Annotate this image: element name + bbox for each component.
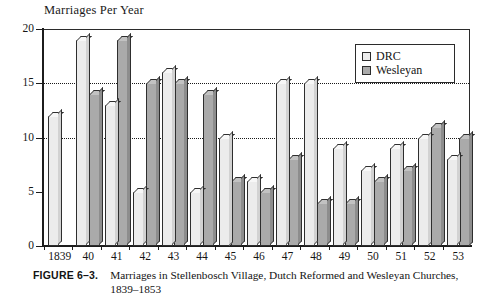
y-tick-label-20: 20 <box>8 23 34 34</box>
bar-group-43 <box>159 29 187 246</box>
bar-wesleyan-43 <box>174 83 185 246</box>
bar-wesleyan-44 <box>203 94 214 246</box>
bar-side-face <box>200 185 204 245</box>
bar-wesleyan-42 <box>146 83 157 246</box>
bar-side-face <box>143 185 147 245</box>
bar-wesleyan-52 <box>431 127 442 246</box>
bar-drc-1839 <box>48 116 59 246</box>
bar-side-face <box>213 87 217 245</box>
x-tick-mark-53 <box>443 246 444 250</box>
bar-side-face <box>184 76 188 245</box>
bar-drc-47 <box>276 83 287 246</box>
legend-swatch-drc-icon <box>362 52 371 61</box>
bar-drc-43 <box>162 72 173 246</box>
x-tick-mark-41 <box>101 246 102 250</box>
bar-drc-48 <box>304 83 315 246</box>
x-tick-mark-51 <box>386 246 387 250</box>
caption-text: Marriages in Stellenbosch Village, Dutch… <box>110 269 478 296</box>
x-tick-mark-50 <box>357 246 358 250</box>
bar-side-face <box>314 76 318 245</box>
bar-group-41 <box>102 29 130 246</box>
x-tick-mark-40 <box>72 246 73 250</box>
legend-swatch-wesleyan-icon <box>362 66 371 75</box>
y-tick-mark-20 <box>36 29 43 30</box>
bar-wesleyan-50 <box>374 181 385 246</box>
bar-group-46 <box>244 29 272 246</box>
bar-drc-40 <box>76 40 87 246</box>
bar-side-face <box>58 109 62 245</box>
bar-side-face <box>327 196 331 245</box>
bar-side-face <box>156 76 160 245</box>
bar-side-face <box>127 33 131 245</box>
bar-drc-45 <box>219 138 230 247</box>
bar-group-40 <box>73 29 101 246</box>
bar-group-44 <box>187 29 215 246</box>
y-tick-label-15: 15 <box>8 77 34 88</box>
bar-drc-41 <box>105 105 116 246</box>
bar-side-face <box>355 196 359 245</box>
legend-item-wesleyan: Wesleyan <box>362 63 448 77</box>
bar-wesleyan-40 <box>89 94 100 246</box>
y-tick-label-5: 5 <box>8 186 34 197</box>
x-tick-mark-49 <box>329 246 330 250</box>
legend-label-drc: DRC <box>376 49 401 63</box>
bar-wesleyan-46 <box>260 192 271 246</box>
bar-group-49 <box>330 29 358 246</box>
chart-axis-title: Marriages Per Year <box>44 3 144 18</box>
figure-caption: FIGURE 6–3.Marriages in Stellenbosch Vil… <box>33 269 483 296</box>
bar-drc-42 <box>133 192 144 246</box>
figure-root: Marriages Per Year 05101520 183940414243… <box>0 0 495 307</box>
bar-side-face <box>298 152 302 245</box>
bar-side-face <box>99 87 103 245</box>
bar-group-47 <box>273 29 301 246</box>
bar-drc-44 <box>190 192 201 246</box>
bar-side-face <box>115 98 119 245</box>
legend-item-drc: DRC <box>362 49 448 63</box>
bar-side-face <box>412 163 416 245</box>
bar-group-45 <box>216 29 244 246</box>
bar-group-42 <box>130 29 158 246</box>
x-tick-mark-43 <box>158 246 159 250</box>
bar-drc-52 <box>418 138 429 247</box>
bar-side-face <box>270 185 274 245</box>
x-tick-mark-42 <box>129 246 130 250</box>
x-tick-mark-45 <box>215 246 216 250</box>
bar-side-face <box>172 65 176 245</box>
legend: DRC Wesleyan <box>355 44 455 83</box>
bar-side-face <box>371 163 375 245</box>
y-tick-mark-5 <box>36 192 43 193</box>
bar-side-face <box>400 141 404 245</box>
x-tick-mark-48 <box>300 246 301 250</box>
y-tick-mark-15 <box>36 83 43 84</box>
bar-side-face <box>469 131 473 246</box>
bar-drc-53 <box>447 159 458 246</box>
bar-wesleyan-48 <box>317 203 328 246</box>
y-tick-mark-0 <box>36 246 43 247</box>
x-tick-label-53: 53 <box>438 250 478 262</box>
bar-drc-49 <box>333 148 344 246</box>
bar-wesleyan-41 <box>117 40 128 246</box>
bar-side-face <box>384 174 388 245</box>
bar-drc-50 <box>361 170 372 246</box>
x-tick-mark-1839 <box>44 246 45 250</box>
bar-side-face <box>441 120 445 245</box>
y-tick-label-10: 10 <box>8 132 34 143</box>
bar-side-face <box>229 131 233 246</box>
bar-drc-51 <box>390 148 401 246</box>
bar-side-face <box>428 131 432 246</box>
bar-side-face <box>241 174 245 245</box>
x-tick-mark-52 <box>414 246 415 250</box>
x-tick-mark-44 <box>186 246 187 250</box>
bar-side-face <box>457 152 461 245</box>
bar-top-face <box>76 36 92 41</box>
bar-side-face <box>343 141 347 245</box>
legend-label-wesleyan: Wesleyan <box>376 63 422 77</box>
bar-side-face <box>86 33 90 245</box>
y-tick-label-0: 0 <box>8 240 34 251</box>
bar-side-face <box>257 174 261 245</box>
caption-figure-number: FIGURE 6–3. <box>33 269 98 281</box>
bar-side-face <box>286 76 290 245</box>
x-tick-mark-47 <box>272 246 273 250</box>
y-tick-mark-10 <box>36 138 43 139</box>
bar-group-1839 <box>45 29 73 246</box>
